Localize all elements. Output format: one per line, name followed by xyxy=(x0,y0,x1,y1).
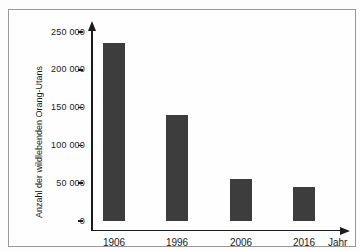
y-tick-label: 250 000 xyxy=(29,27,85,38)
bar-1996 xyxy=(166,115,188,221)
y-tick-label: 50 000 xyxy=(29,178,85,189)
x-axis-title: Jahr xyxy=(328,237,360,249)
x-tick-label-1906: 1906 xyxy=(94,237,134,249)
bar-2016 xyxy=(293,187,315,221)
chart-image: Anzahl der wildlebenden Orang-Utans 050 … xyxy=(0,0,360,251)
y-tick-label: 0 xyxy=(29,216,85,227)
x-tick-label-2016: 2016 xyxy=(284,237,324,249)
y-tick-label: 100 000 xyxy=(29,140,85,151)
x-tick-label-2006: 2006 xyxy=(221,237,261,249)
x-axis-line xyxy=(91,230,343,232)
y-tick-label: 150 000 xyxy=(29,102,85,113)
y-tick-label: 200 000 xyxy=(29,64,85,75)
x-axis-arrowhead-icon xyxy=(340,227,350,235)
y-axis-line xyxy=(91,24,93,231)
bar-1906 xyxy=(103,43,125,221)
chart-frame: Anzahl der wildlebenden Orang-Utans 050 … xyxy=(8,9,356,247)
x-tick-label-1996: 1996 xyxy=(157,237,197,249)
bar-2006 xyxy=(230,179,252,221)
y-axis-arrowhead-icon xyxy=(88,21,96,31)
